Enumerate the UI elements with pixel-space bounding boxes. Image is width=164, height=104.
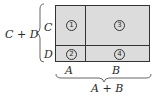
left-brace-icon xyxy=(36,4,44,62)
bottom-brace-icon xyxy=(56,74,151,82)
brace-lines xyxy=(0,0,164,104)
